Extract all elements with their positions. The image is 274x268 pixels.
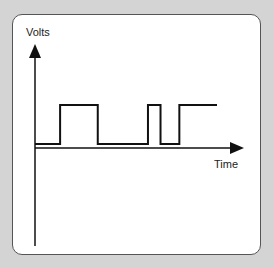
signal-waveform: [35, 105, 217, 144]
x-axis-label: Time: [214, 158, 238, 170]
y-axis-arrow-icon: [29, 44, 41, 58]
y-axis-label: Volts: [26, 26, 50, 38]
waveform-diagram: Volts Time: [0, 0, 274, 268]
x-axis-arrow-icon: [230, 142, 244, 154]
